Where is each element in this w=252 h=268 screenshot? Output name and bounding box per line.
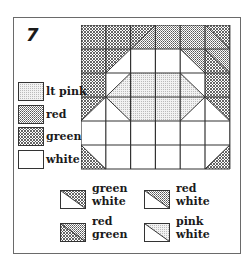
quilt-cell-lt_pink xyxy=(131,73,156,97)
quilt-cell-green xyxy=(106,25,131,49)
legend-label-lt-pink: lt pink xyxy=(46,86,87,98)
quilt-cell-white xyxy=(180,145,205,169)
legend-swatch-white xyxy=(18,150,44,169)
legend-swatch-red xyxy=(18,105,44,124)
quilt-cell-white xyxy=(205,121,230,145)
legend-label-line2: white xyxy=(92,196,126,208)
quilt-cell-white xyxy=(106,145,131,169)
quilt-cell-lt_pink xyxy=(155,97,180,121)
legend-swatch-pink-white xyxy=(144,223,170,242)
quilt-cell-green xyxy=(81,25,106,49)
quilt-cell-white xyxy=(155,49,180,73)
quilt-cell-red xyxy=(155,25,180,49)
quilt-cell-green xyxy=(205,73,230,97)
legend-label-line1: red xyxy=(176,183,197,195)
quilt-cell-white xyxy=(131,49,156,73)
quilt-cell-white xyxy=(131,145,156,169)
legend-label-line2: green xyxy=(92,229,127,241)
legend-label-line1: pink xyxy=(176,216,204,228)
legend-label-white: white xyxy=(46,154,80,166)
quilt-cell-white xyxy=(155,145,180,169)
quilt-cell-white xyxy=(106,121,131,145)
quilt-cell-red xyxy=(180,25,205,49)
quilt-cell-white xyxy=(81,121,106,145)
quilt-cell-white xyxy=(131,121,156,145)
legend-swatch-lt-pink xyxy=(18,82,44,101)
legend-swatch-red-white xyxy=(144,190,170,209)
quilt-cell-white xyxy=(155,121,180,145)
legend-label-line1: green xyxy=(92,183,127,195)
legend-swatch-green-white xyxy=(60,190,86,209)
legend-label-line1: red xyxy=(92,216,113,228)
legend-swatch-green xyxy=(18,127,44,146)
legend-label-line2: white xyxy=(176,229,210,241)
quilt-cell-green xyxy=(81,49,106,73)
quilt-cell-lt_pink xyxy=(155,73,180,97)
legend-label-green: green xyxy=(46,131,81,143)
legend-swatch-red-green xyxy=(60,223,86,242)
pattern-number: 7 xyxy=(26,24,39,45)
legend-label-line2: white xyxy=(176,196,210,208)
quilt-cell-lt_pink xyxy=(131,97,156,121)
quilt-grid xyxy=(81,25,231,170)
legend-label-red: red xyxy=(46,109,67,121)
quilt-cell-white xyxy=(180,121,205,145)
